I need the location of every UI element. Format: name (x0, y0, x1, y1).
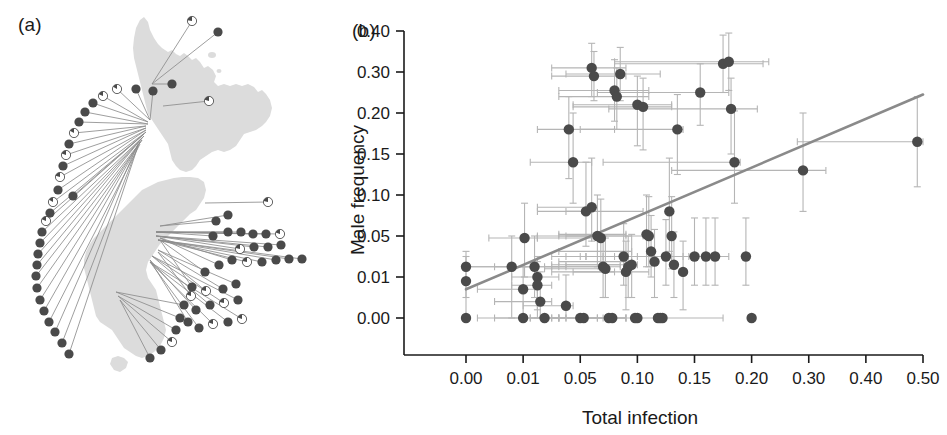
data-point[interactable] (701, 251, 711, 261)
map-pie-marker[interactable] (186, 291, 195, 300)
data-point[interactable] (912, 137, 922, 147)
map-pie-marker[interactable] (145, 353, 154, 362)
data-point[interactable] (672, 124, 682, 134)
map-pie-marker[interactable] (187, 16, 196, 25)
map-pie-marker[interactable] (284, 254, 293, 263)
map-pie-marker[interactable] (263, 242, 272, 251)
data-point[interactable] (626, 260, 636, 270)
data-point[interactable] (561, 301, 571, 311)
map-pie-marker[interactable] (32, 260, 41, 269)
data-point[interactable] (726, 104, 736, 114)
map-pie-marker[interactable] (231, 279, 240, 288)
map-pie-marker[interactable] (233, 295, 242, 304)
map-pie-marker[interactable] (237, 314, 246, 323)
map-pie-marker[interactable] (179, 300, 188, 309)
data-point[interactable] (678, 267, 688, 277)
data-point[interactable] (741, 251, 751, 261)
data-point[interactable] (612, 91, 622, 101)
map-pie-marker[interactable] (183, 317, 192, 326)
map-pie-marker[interactable] (249, 242, 258, 251)
data-point[interactable] (461, 313, 471, 323)
data-point[interactable] (518, 313, 528, 323)
map-pie-marker[interactable] (35, 295, 44, 304)
map-pie-marker[interactable] (223, 210, 232, 219)
map-pie-marker[interactable] (214, 260, 223, 269)
data-point[interactable] (618, 251, 628, 261)
map-pie-marker[interactable] (131, 84, 140, 93)
map-pie-marker[interactable] (200, 267, 209, 276)
map-pie-marker[interactable] (271, 255, 280, 264)
map-pie-marker[interactable] (208, 231, 217, 240)
map-pie-marker[interactable] (53, 185, 62, 194)
map-pie-marker[interactable] (223, 317, 232, 326)
map-pie-marker[interactable] (39, 306, 48, 315)
map-pie-marker[interactable] (167, 79, 176, 88)
map-pie-marker[interactable] (167, 337, 176, 346)
data-point[interactable] (798, 165, 808, 175)
map-pie-marker[interactable] (35, 238, 44, 247)
data-point[interactable] (532, 280, 542, 290)
map-pie-marker[interactable] (227, 255, 236, 264)
data-point[interactable] (586, 202, 596, 212)
map-pie-marker[interactable] (275, 229, 284, 238)
map-pie-marker[interactable] (223, 227, 232, 236)
map-pie-marker[interactable] (44, 317, 53, 326)
map-pie-marker[interactable] (248, 229, 257, 238)
map-pie-marker[interactable] (218, 284, 227, 293)
map-pie-marker[interactable] (55, 172, 64, 181)
map-pie-marker[interactable] (48, 197, 57, 206)
map-pie-marker[interactable] (148, 86, 157, 95)
map-pie-marker[interactable] (219, 298, 228, 307)
map-pie-marker[interactable] (171, 325, 180, 334)
data-point[interactable] (669, 260, 679, 270)
data-point[interactable] (664, 206, 674, 216)
data-point[interactable] (578, 313, 588, 323)
data-point[interactable] (461, 262, 471, 272)
map-pie-marker[interactable] (80, 107, 89, 116)
map-pie-marker[interactable] (211, 216, 220, 225)
map-pie-marker[interactable] (201, 286, 210, 295)
map-pie-marker[interactable] (69, 128, 78, 137)
map-pie-marker[interactable] (235, 244, 244, 253)
map-pie-marker[interactable] (187, 282, 196, 291)
map-pie-marker[interactable] (242, 257, 251, 266)
map-pie-marker[interactable] (58, 161, 67, 170)
data-point[interactable] (689, 251, 699, 261)
map-pie-marker[interactable] (57, 338, 66, 347)
data-point[interactable] (646, 246, 656, 256)
map-pie-marker[interactable] (263, 197, 272, 206)
map-pie-marker[interactable] (175, 313, 184, 322)
data-point[interactable] (729, 157, 739, 167)
map-pie-marker[interactable] (64, 349, 73, 358)
data-point[interactable] (649, 256, 659, 266)
data-point[interactable] (644, 231, 654, 241)
data-point[interactable] (710, 251, 720, 261)
map-pie-marker[interactable] (33, 249, 42, 258)
map-pie-marker[interactable] (88, 98, 97, 107)
map-pie-marker[interactable] (74, 117, 83, 126)
data-point[interactable] (638, 102, 648, 112)
map-pie-marker[interactable] (50, 327, 59, 336)
map-pie-marker[interactable] (31, 271, 40, 280)
map-pie-marker[interactable] (191, 305, 200, 314)
map-pie-marker[interactable] (112, 84, 121, 93)
data-point[interactable] (596, 233, 606, 243)
map-pie-marker[interactable] (194, 323, 203, 332)
map-pie-marker[interactable] (236, 227, 245, 236)
data-point[interactable] (529, 262, 539, 272)
map-pie-marker[interactable] (41, 216, 50, 225)
data-point[interactable] (589, 71, 599, 81)
map-pie-marker[interactable] (37, 227, 46, 236)
map-pie-marker[interactable] (98, 91, 107, 100)
map-pie-marker[interactable] (261, 229, 270, 238)
data-point[interactable] (461, 276, 471, 286)
map-pie-marker[interactable] (61, 150, 70, 159)
data-point[interactable] (568, 157, 578, 167)
data-point[interactable] (564, 124, 574, 134)
map-pie-marker[interactable] (64, 139, 73, 148)
data-point[interactable] (724, 57, 734, 67)
data-point[interactable] (695, 87, 705, 97)
data-point[interactable] (600, 264, 610, 274)
data-point[interactable] (539, 313, 549, 323)
data-point[interactable] (519, 233, 529, 243)
